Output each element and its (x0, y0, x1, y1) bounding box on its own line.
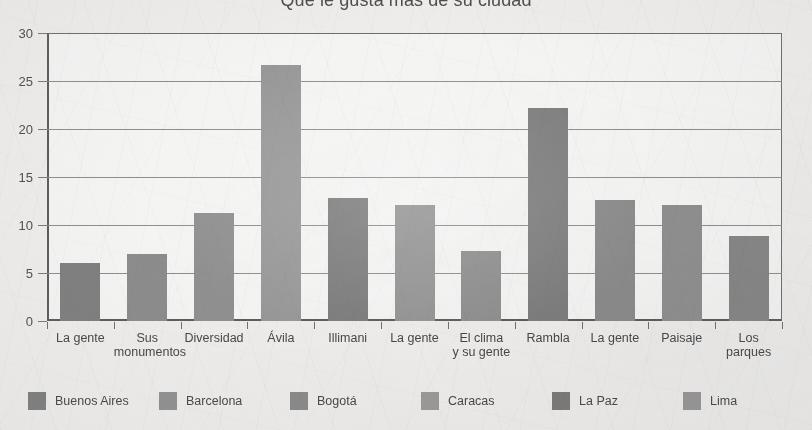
y-tick-mark (38, 225, 47, 226)
x-axis-tick-label: Ávila (247, 331, 314, 345)
y-axis-tick-label: 25 (3, 74, 33, 89)
x-tick-mark (582, 322, 583, 329)
bar (127, 254, 167, 321)
legend-color-swatch (421, 392, 439, 410)
x-tick-mark (114, 322, 115, 329)
y-tick-mark (38, 177, 47, 178)
x-axis-tick-label: Sus monumentos (114, 331, 181, 359)
bar (328, 198, 368, 321)
legend-item[interactable]: La Paz (552, 392, 618, 410)
x-axis-tick-label: Diversidad (181, 331, 248, 345)
legend-item[interactable]: Bogotá (290, 392, 357, 410)
y-axis-tick-label: 10 (3, 218, 33, 233)
y-axis-tick-label: 20 (3, 122, 33, 137)
y-tick-mark (38, 321, 47, 322)
x-axis-tick-label: La gente (582, 331, 649, 345)
y-tick-mark (38, 81, 47, 82)
bar (60, 263, 100, 321)
chart-title: Qué le gusta más de su ciudad (0, 0, 812, 11)
x-axis-tick-label: Illimani (314, 331, 381, 345)
gridline (47, 177, 782, 178)
legend-label: Barcelona (186, 394, 242, 408)
gridline (47, 129, 782, 130)
legend-label: Bogotá (317, 394, 357, 408)
bar (595, 200, 635, 321)
bar (729, 236, 769, 321)
x-tick-mark (381, 322, 382, 329)
y-axis-tick-label: 5 (3, 266, 33, 281)
x-axis-tick-label: El clima y su gente (448, 331, 515, 359)
x-axis-tick-label: Rambla (515, 331, 582, 345)
x-axis-tick-label: Paisaje (648, 331, 715, 345)
x-tick-mark (782, 322, 783, 329)
x-tick-mark (715, 322, 716, 329)
y-axis-tick-label: 15 (3, 170, 33, 185)
chart-legend: Buenos AiresBarcelonaBogotáCaracasLa Paz… (0, 386, 812, 416)
x-axis-tick-label: Los parques (715, 331, 782, 359)
y-tick-mark (38, 273, 47, 274)
legend-color-swatch (290, 392, 308, 410)
legend-label: Lima (710, 394, 737, 408)
x-tick-mark (448, 322, 449, 329)
bar (261, 65, 301, 321)
y-tick-mark (38, 129, 47, 130)
x-tick-mark (247, 322, 248, 329)
legend-item[interactable]: Caracas (421, 392, 495, 410)
bar (461, 251, 501, 321)
legend-item[interactable]: Buenos Aires (28, 392, 129, 410)
legend-label: La Paz (579, 394, 618, 408)
y-axis-tick-label: 30 (3, 26, 33, 41)
gridline (47, 81, 782, 82)
legend-color-swatch (552, 392, 570, 410)
x-tick-mark (181, 322, 182, 329)
legend-label: Buenos Aires (55, 394, 129, 408)
legend-color-swatch (28, 392, 46, 410)
y-axis-tick-label: 0 (3, 314, 33, 329)
legend-item[interactable]: Lima (683, 392, 737, 410)
legend-item[interactable]: Barcelona (159, 392, 242, 410)
x-tick-mark (515, 322, 516, 329)
x-tick-mark (314, 322, 315, 329)
legend-color-swatch (683, 392, 701, 410)
bar (662, 205, 702, 321)
y-tick-mark (38, 33, 47, 34)
chart-plot-wrapper: 051015202530 La genteSus monumentosDiver… (0, 0, 812, 430)
bar (194, 213, 234, 321)
x-tick-mark (648, 322, 649, 329)
bar (395, 205, 435, 321)
x-axis-tick-label: La gente (381, 331, 448, 345)
legend-label: Caracas (448, 394, 495, 408)
x-tick-mark (47, 322, 48, 329)
legend-color-swatch (159, 392, 177, 410)
x-axis-tick-label: La gente (47, 331, 114, 345)
bar (528, 108, 568, 321)
